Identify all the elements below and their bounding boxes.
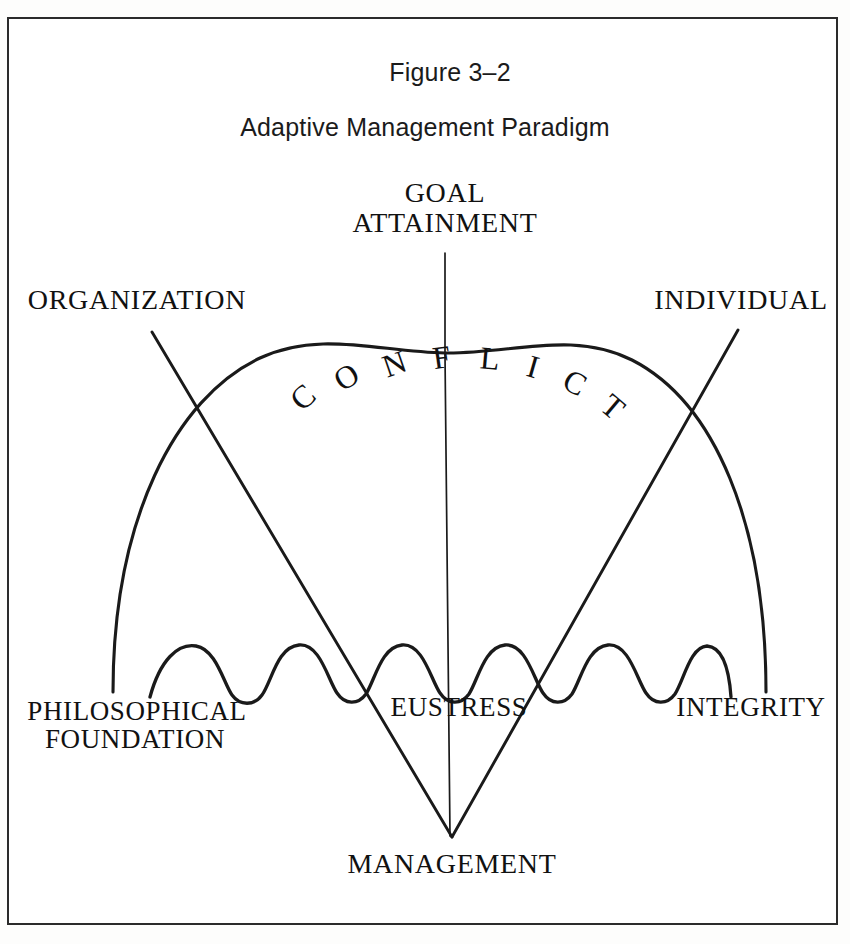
- label-attainment: ATTAINMENT: [352, 207, 537, 238]
- label-individual: INDIVIDUAL: [654, 284, 827, 315]
- label-philosophical: PHILOSOPHICAL: [27, 696, 246, 726]
- conflict-letter: C: [557, 361, 593, 403]
- conflict-letter: L: [479, 339, 502, 377]
- conflict-letter: F: [430, 338, 453, 376]
- figure-number-label: Figure 3–2: [389, 58, 511, 86]
- diagonal-individual-to-management: [452, 330, 738, 837]
- label-eustress: EUSTRESS: [391, 692, 528, 722]
- label-integrity: INTEGRITY: [676, 692, 825, 722]
- conflict-letter: T: [594, 387, 632, 427]
- label-goal: GOAL: [405, 177, 486, 208]
- label-management: MANAGEMENT: [347, 848, 556, 879]
- conflict-arc: [113, 344, 766, 692]
- conflict-letter: O: [327, 355, 365, 398]
- center-axis-lower: [445, 355, 450, 836]
- label-foundation: FOUNDATION: [45, 724, 225, 754]
- conflict-letter: I: [523, 348, 543, 386]
- conflict-letter: C: [283, 376, 323, 417]
- adaptive-management-paradigm-diagram: Figure 3–2 Adaptive Management Paradigm …: [0, 0, 850, 944]
- label-organization: ORGANIZATION: [28, 284, 246, 315]
- figure-page: Figure 3–2 Adaptive Management Paradigm …: [0, 0, 850, 944]
- figure-title: Adaptive Management Paradigm: [240, 113, 610, 141]
